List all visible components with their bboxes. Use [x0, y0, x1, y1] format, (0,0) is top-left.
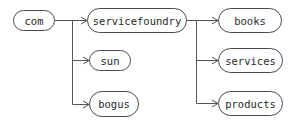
- node-label: services: [225, 55, 276, 67]
- node-services: services: [218, 48, 283, 73]
- node-label: books: [234, 15, 266, 27]
- edge-com-trunk: [55, 21, 73, 105]
- node-sun: sun: [89, 50, 131, 71]
- node-label: sun: [101, 55, 120, 67]
- node-bogus: bogus: [89, 91, 139, 117]
- edge-sf-trunk: [187, 21, 197, 104]
- node-products: products: [218, 91, 283, 116]
- node-servicefoundry: servicefoundry: [87, 8, 187, 33]
- node-label: com: [25, 15, 44, 27]
- node-label: bogus: [98, 98, 130, 110]
- node-com: com: [13, 10, 55, 31]
- node-books: books: [218, 8, 282, 33]
- node-label: products: [225, 98, 276, 110]
- package-tree-diagram: com servicefoundry sun bogus books servi…: [0, 0, 295, 120]
- node-label: servicefoundry: [93, 15, 182, 27]
